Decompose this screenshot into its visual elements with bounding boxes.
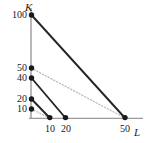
point-k-100	[29, 12, 34, 17]
x-tick-label-50: 50	[113, 124, 137, 134]
y-tick-label-100: 100	[2, 10, 27, 20]
solid-line-20-10	[32, 99, 50, 118]
point-k-20	[29, 96, 34, 101]
solid-line-100-50	[32, 15, 126, 118]
x-tick-label-20: 20	[54, 124, 78, 134]
point-l-20	[63, 115, 68, 120]
point-k-50	[29, 65, 34, 70]
isoquant-figure: K L 100 50 40 20 10 10 20 50	[0, 0, 147, 143]
point-l-50	[122, 115, 127, 120]
point-l-10	[47, 115, 52, 120]
y-tick-label-40: 40	[2, 73, 27, 83]
y-tick-label-10: 10	[2, 104, 27, 114]
point-k-40	[29, 75, 34, 80]
point-k-10	[29, 106, 34, 111]
